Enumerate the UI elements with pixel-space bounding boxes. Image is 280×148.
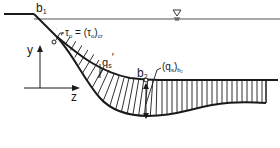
svg-text:qs′: qs′ xyxy=(102,51,114,69)
qs-prime-arrow xyxy=(98,68,104,78)
label-b2-sub: 2 xyxy=(144,73,148,80)
label-tau-cr: cr xyxy=(98,33,103,39)
channel-diagram: b1 τo = (τo)cr y z qs′ b2 (qs)b2 xyxy=(0,0,280,148)
label-qs-b2-sub3: 2 xyxy=(181,69,184,74)
b2-arrow-up-icon xyxy=(143,83,149,89)
label-z-axis: z xyxy=(71,90,77,104)
flux-profile-curve xyxy=(56,36,266,116)
water-surface-icon xyxy=(173,10,181,20)
svg-text:y: y xyxy=(27,43,33,57)
label-qs-prime-sub: s xyxy=(108,62,112,69)
svg-text:b1: b1 xyxy=(36,1,47,15)
bank-slope xyxy=(34,14,56,36)
label-qs-b2: (q xyxy=(162,61,171,72)
qs-b2-leader xyxy=(146,68,161,104)
svg-text:b2: b2 xyxy=(137,66,148,80)
y-axis-arrow-icon xyxy=(37,45,43,52)
label-y-axis: y xyxy=(27,43,33,57)
label-b1-sub: 1 xyxy=(43,8,47,15)
svg-text:z: z xyxy=(71,90,77,104)
tau-point-marker xyxy=(52,40,56,44)
label-qs-prime-mark: ′ xyxy=(112,51,114,63)
svg-text:τo = (τo)cr: τo = (τo)cr xyxy=(65,27,103,39)
svg-text:(qs)b2: (qs)b2 xyxy=(162,61,184,74)
label-tau-eq: = (τ xyxy=(72,27,91,38)
